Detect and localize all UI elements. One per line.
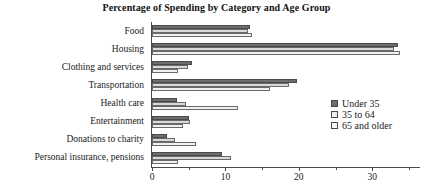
x-axis-tick-label: 30 [368, 172, 378, 183]
bar-group [152, 61, 420, 73]
bar-group [152, 25, 420, 37]
legend-swatch-icon [331, 111, 338, 118]
legend-label: 65 and older [342, 120, 392, 131]
bar [152, 124, 183, 128]
legend-swatch-icon [331, 122, 338, 129]
x-axis-tick [225, 167, 226, 171]
legend-swatch-icon [331, 100, 338, 107]
legend-label: Under 35 [342, 98, 380, 109]
bar [152, 69, 178, 73]
y-axis-label: Donations to charity [66, 134, 144, 144]
bar [152, 33, 252, 37]
x-axis-minor-tick [262, 167, 263, 170]
bar [152, 160, 178, 164]
y-axis-label: Transportation [88, 80, 144, 90]
x-axis-tick [152, 167, 153, 171]
x-axis-tick [299, 167, 300, 171]
y-axis-label: Housing [112, 44, 144, 54]
y-axis-label: Entertainment [90, 116, 144, 126]
x-axis-tick-label: 20 [294, 172, 304, 183]
bar-group [152, 152, 420, 164]
chart-title: Percentage of Spending by Category and A… [0, 2, 433, 13]
y-axis-label: Food [124, 26, 144, 36]
bar-group [152, 134, 420, 146]
y-axis-label: Personal insurance, pensions [35, 152, 145, 162]
x-axis-minor-tick [409, 167, 410, 170]
chart-legend: Under 35 35 to 64 65 and older [331, 98, 429, 131]
legend-item-under-35: Under 35 [331, 98, 429, 109]
bar [152, 51, 400, 55]
x-axis-tick-label: 10 [221, 172, 231, 183]
y-axis-category-labels: FoodHousingClothing and servicesTranspor… [0, 22, 148, 167]
x-axis-tick [372, 167, 373, 171]
x-axis-minor-tick [189, 167, 190, 170]
legend-item-65-and-older: 65 and older [331, 120, 429, 131]
bar-group [152, 43, 420, 55]
bar [152, 142, 196, 146]
bar [152, 106, 238, 110]
y-axis-label: Clothing and services [62, 62, 144, 72]
bar [152, 87, 270, 91]
x-axis-line [151, 167, 420, 168]
x-axis-minor-tick [336, 167, 337, 170]
y-axis-label: Health care [100, 98, 144, 108]
legend-item-35-to-64: 35 to 64 [331, 109, 429, 120]
plot-area [152, 22, 420, 167]
legend-label: 35 to 64 [342, 109, 375, 120]
bar-group [152, 79, 420, 91]
bar-chart: Percentage of Spending by Category and A… [0, 0, 433, 188]
x-axis-tick-label: 0 [150, 172, 155, 183]
